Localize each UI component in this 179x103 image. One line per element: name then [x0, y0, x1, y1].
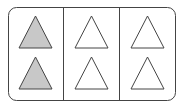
fraction-diagram — [0, 0, 179, 103]
